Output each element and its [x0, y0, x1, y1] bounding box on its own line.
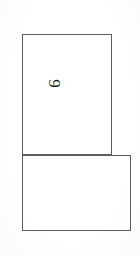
scanned-page-canvas: 9 0 — [0, 0, 140, 256]
lower-cell-box[interactable]: 0 — [22, 155, 131, 231]
upper-cell-box[interactable]: 9 — [22, 34, 112, 155]
handwritten-digit-nine: 9 — [46, 79, 63, 88]
